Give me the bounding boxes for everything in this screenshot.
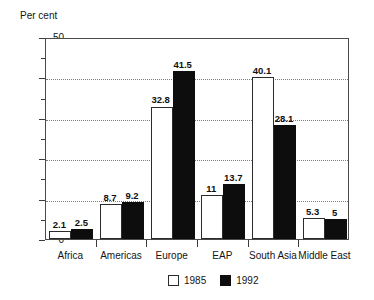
- bar-south-asia-1992: [274, 125, 296, 239]
- bar-americas-1992: [122, 202, 144, 239]
- value-label: 2.5: [64, 218, 98, 228]
- x-axis-label-americas: Americas: [96, 250, 147, 262]
- x-axis-label-africa: Africa: [45, 250, 96, 262]
- gridline: [46, 79, 348, 80]
- gridline: [46, 120, 348, 121]
- x-axis-label-europe: Europe: [146, 250, 197, 262]
- legend-item-1985: 1985: [168, 275, 206, 286]
- bar-eap-1985: [201, 195, 223, 239]
- value-label: 32.8: [144, 95, 178, 105]
- value-label: 9.2: [115, 191, 149, 201]
- x-axis-label-middle-east: Middle East: [298, 250, 349, 262]
- y-axis-title: Per cent: [20, 10, 57, 22]
- group-separator: [298, 240, 299, 247]
- bar-middle-east-1985: [303, 218, 325, 239]
- gridline: [46, 160, 348, 161]
- legend-item-1992: 1992: [220, 275, 258, 286]
- group-separator: [197, 240, 198, 247]
- value-label: 11: [194, 184, 228, 194]
- gridline: [46, 201, 348, 202]
- legend-swatch-white-square: [168, 275, 179, 286]
- bar-chart: Per cent 01020304050 2.12.58.79.232.841.…: [0, 0, 374, 300]
- chart-legend: 1985 1992: [168, 275, 259, 286]
- bar-middle-east-1992: [325, 219, 347, 239]
- bar-south-asia-1985: [252, 77, 274, 239]
- legend-label-1992: 1992: [236, 275, 258, 286]
- value-label: 28.1: [267, 114, 301, 124]
- legend-label-1985: 1985: [184, 275, 206, 286]
- value-label: 5: [318, 208, 352, 218]
- bar-africa-1985: [49, 231, 71, 239]
- x-axis-label-eap: EAP: [197, 250, 248, 262]
- group-separator: [248, 240, 249, 247]
- x-axis-label-south-asia: South Asia: [248, 250, 299, 262]
- value-label: 40.1: [245, 66, 279, 76]
- group-separator: [146, 240, 147, 247]
- bar-americas-1985: [100, 204, 122, 239]
- value-label: 41.5: [166, 60, 200, 70]
- legend-swatch-black-square: [220, 275, 231, 286]
- bar-africa-1992: [71, 229, 93, 239]
- bar-europe-1985: [151, 107, 173, 240]
- group-separator: [96, 240, 97, 247]
- value-label: 13.7: [216, 173, 250, 183]
